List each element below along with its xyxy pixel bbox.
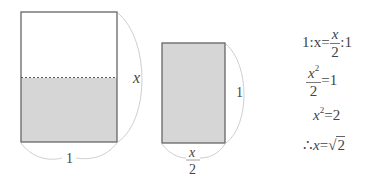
- eq2-rhs: 1: [330, 72, 338, 88]
- therefore-symbol: ∴: [303, 137, 313, 153]
- eq2-fraction: x22: [306, 64, 321, 99]
- height-label-large: x: [132, 69, 140, 86]
- eq1-fraction: x2: [330, 27, 341, 60]
- eq1-lhs: 1:x: [302, 34, 321, 50]
- width-label-small-numerator: x: [188, 145, 196, 160]
- eq3-equals: =: [324, 107, 332, 123]
- eq2-equals: =: [321, 72, 329, 88]
- eq4-var: x: [313, 137, 320, 153]
- eq2-num: x2: [306, 64, 321, 83]
- eq2-num-exp: 2: [315, 63, 320, 73]
- eq1-tail: :1: [340, 34, 352, 50]
- equation-solution: ∴x=√2: [303, 136, 345, 154]
- eq2-den: 2: [306, 83, 321, 99]
- width-label-small-denominator: 2: [189, 162, 196, 177]
- equation-product: x22=1: [306, 64, 337, 99]
- eq2-num-var: x: [308, 65, 315, 81]
- eq3-rhs: 2: [333, 107, 341, 123]
- eq3-var: x: [313, 107, 320, 123]
- eq4-equals: =: [320, 137, 328, 153]
- eq1-den: 2: [330, 44, 341, 60]
- equation-square: x2=2: [313, 105, 340, 124]
- height-label-small: 1: [236, 85, 243, 100]
- eq1-equals: =: [321, 34, 329, 50]
- small-rectangle: [162, 43, 225, 143]
- eq4-radicand: 2: [336, 136, 345, 153]
- large-rectangle: [21, 12, 117, 142]
- equation-proportion: 1:x=x2:1: [302, 27, 352, 60]
- eq1-num: x: [330, 27, 341, 44]
- width-label-large: 1: [66, 151, 73, 166]
